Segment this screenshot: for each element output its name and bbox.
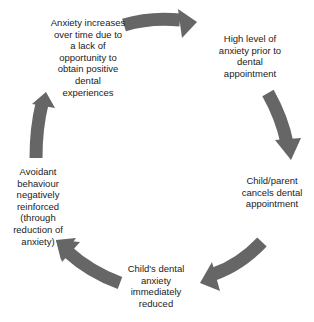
- node-anxiety-increases: Anxiety increases over time due to a lac…: [40, 17, 136, 98]
- arrow-cancels-to-anxiety-reduced: [200, 242, 262, 291]
- node-cancels-appointment: Child/parent cancels dental appointment: [232, 175, 312, 210]
- arrow-avoidant-to-anxiety-increases: [32, 92, 55, 158]
- node-anxiety-immediately-reduced: Child's dental anxiety immediately reduc…: [120, 263, 192, 309]
- node-high-anxiety-before-appointment: High level of anxiety prior to dental ap…: [210, 33, 290, 79]
- arrow-high-level-to-cancels: [268, 93, 301, 160]
- node-avoidant-behaviour-reinforced: Avoidant behaviour negatively reinforced…: [8, 166, 68, 247]
- anxiety-cycle-diagram: Anxiety increases over time due to a lac…: [0, 0, 314, 322]
